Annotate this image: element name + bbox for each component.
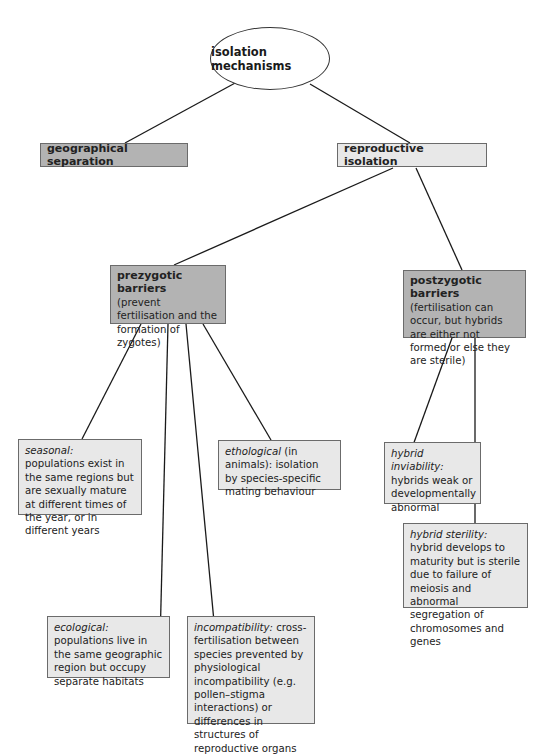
node-geographical-separation: geographical separation: [40, 143, 188, 167]
node-ethological: ethological (in animals): isolation by s…: [218, 440, 341, 490]
inviability-term: hybrid inviability:: [391, 448, 444, 472]
node-postzygotic-barriers: postzygotic barriers (fertilisation can …: [403, 270, 526, 338]
node-hybrid-sterility: hybrid sterility: hybrid develops to mat…: [403, 523, 528, 608]
ecological-term: ecological:: [54, 622, 109, 633]
incompatibility-term: incompatibility:: [194, 622, 273, 633]
postzygotic-heading: postzygotic barriers: [410, 274, 519, 301]
seasonal-term: seasonal:: [25, 445, 73, 456]
root-node-isolation-mechanisms: isolation mechanisms: [210, 27, 330, 90]
postzygotic-description: (fertilisation can occur, but hybrids ar…: [410, 302, 510, 367]
reproductive-label: reproductive isolation: [344, 142, 480, 169]
prezygotic-description: (prevent fertilisation and the formation…: [117, 297, 217, 348]
geographical-label: geographical separation: [47, 142, 181, 169]
node-ecological: ecological: populations live in the same…: [47, 616, 170, 678]
prezygotic-heading: prezygotic barriers: [117, 269, 219, 296]
node-seasonal: seasonal: populations exist in the same …: [18, 439, 142, 515]
node-prezygotic-barriers: prezygotic barriers (prevent fertilisati…: [110, 265, 226, 324]
sterility-description: hybrid develops to maturity but is steri…: [410, 542, 520, 647]
ethological-term: ethological: [225, 446, 281, 457]
sterility-term: hybrid sterility:: [410, 529, 487, 540]
node-hybrid-inviability: hybrid inviability: hybrids weak or deve…: [384, 442, 481, 504]
node-incompatibility: incompatibility: cross-fertilisation bet…: [187, 616, 315, 724]
node-reproductive-isolation: reproductive isolation: [337, 143, 487, 167]
root-label: isolation mechanisms: [211, 45, 329, 73]
